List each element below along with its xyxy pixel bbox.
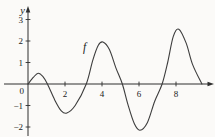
x-tick-label-2: 2 <box>63 89 68 99</box>
x-axis-arrowhead-icon <box>208 82 215 87</box>
plot-generated-layer: 2468−2−1123 <box>4 6 214 136</box>
y-tick-label-1: 1 <box>19 58 24 68</box>
origin-label: 0 <box>20 86 25 96</box>
y-tick-label--2: −2 <box>13 122 23 132</box>
x-tick-label-4: 4 <box>100 89 105 99</box>
y-tick-label-3: 3 <box>19 15 24 25</box>
y-axis-label: y <box>19 5 25 16</box>
y-tick-label-2: 2 <box>19 36 24 46</box>
y-tick-label--1: −1 <box>13 101 23 111</box>
plot-svg: 2468−2−1123 y 0 f <box>0 0 215 137</box>
function-label: f <box>83 41 88 54</box>
function-curve <box>28 29 202 130</box>
function-graph-figure: 2468−2−1123 y 0 f <box>0 0 215 137</box>
x-tick-label-6: 6 <box>137 89 142 99</box>
x-tick-label-8: 8 <box>174 89 179 99</box>
y-axis-arrowhead-icon <box>26 6 31 13</box>
